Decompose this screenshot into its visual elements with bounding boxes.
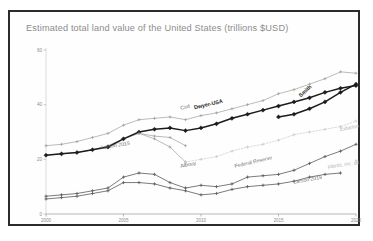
data-point xyxy=(276,115,280,119)
data-point xyxy=(323,90,327,94)
y-axis-tick-label: 20 xyxy=(37,157,43,162)
y-axis-tick-label: 40 xyxy=(37,102,43,107)
series-label: Smith xyxy=(297,84,312,98)
data-point xyxy=(152,127,156,131)
data-point xyxy=(245,112,249,116)
data-point xyxy=(230,116,234,120)
series-line xyxy=(46,173,341,199)
data-point xyxy=(214,122,218,126)
series-label: Dwyer-USA xyxy=(193,98,223,110)
x-axis-tick-label: 2005 xyxy=(118,218,129,223)
data-point xyxy=(90,148,94,152)
y-axis-tick-label: 60 xyxy=(37,48,43,53)
data-point xyxy=(199,126,203,130)
series-line xyxy=(279,84,357,117)
x-axis-tick-label: 2000 xyxy=(41,218,52,223)
chart-frame: Estimated total land value of the United… xyxy=(8,10,360,226)
data-point xyxy=(292,100,296,104)
x-axis-tick-label: 2015 xyxy=(273,218,284,223)
series-label: Federal Reserve xyxy=(234,154,273,168)
data-point xyxy=(307,107,311,111)
data-point xyxy=(75,150,79,154)
x-axis-tick-label: 2020 xyxy=(351,218,362,223)
data-point xyxy=(183,129,187,133)
plot-area: 020406020002005201020152020CirdLarson 20… xyxy=(10,12,362,224)
data-point xyxy=(338,86,342,90)
data-point xyxy=(44,153,48,157)
series-dwyer-usa xyxy=(44,83,358,157)
data-point xyxy=(59,152,63,156)
data-point xyxy=(168,126,172,130)
series-label: Larson 2019 xyxy=(293,174,323,185)
series-label: plants, inc. all xyxy=(327,159,359,169)
chart-svg: 020406020002005201020152020CirdLarson 20… xyxy=(10,12,362,224)
data-point xyxy=(261,108,265,112)
series-label: Cird xyxy=(180,103,191,111)
data-point xyxy=(276,104,280,108)
data-point xyxy=(307,96,311,100)
data-point xyxy=(292,112,296,116)
series-larson-2019 xyxy=(44,171,342,200)
y-axis-tick-label: 0 xyxy=(39,212,42,217)
series-label: Eidarton xyxy=(339,122,359,132)
series-label: Larson 2015 xyxy=(101,140,131,150)
series-line xyxy=(139,133,186,162)
series-label: Albouy xyxy=(180,160,197,169)
x-axis-tick-label: 2010 xyxy=(196,218,207,223)
